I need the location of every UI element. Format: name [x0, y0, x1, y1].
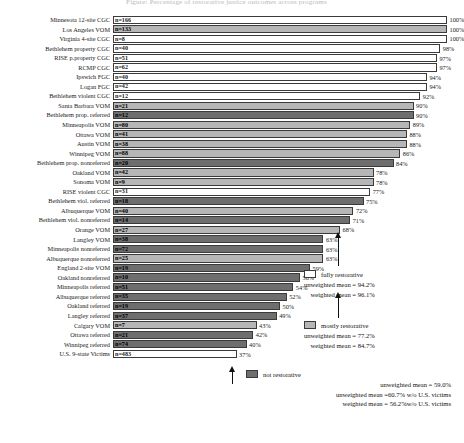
- bar-track: n=3552%: [113, 292, 453, 302]
- arrow-up-fully-icon: [338, 236, 339, 266]
- bar-n-label: n=38: [115, 140, 128, 148]
- bar-track: n=1950%: [113, 301, 453, 311]
- bar-category-label: Bethlehem viol. nonreferred: [0, 215, 113, 225]
- bar-row: England 2-site VOMn=1959%: [0, 263, 453, 273]
- bar-track: n=1290%: [113, 110, 453, 120]
- bar-not: [113, 197, 364, 205]
- bar-mostly: [113, 321, 257, 329]
- bar-category-label: Winnipeg VOM: [0, 149, 113, 159]
- bar-row: RISE violent CGCn=3177%: [0, 187, 453, 197]
- bar-category-label: Los Angeles VOM: [0, 25, 113, 35]
- bar-percent-label: 86%: [403, 149, 415, 158]
- bar-percent-label: 78%: [376, 178, 388, 187]
- bar-row: RCMP CGCn=6297%: [0, 63, 453, 73]
- bar-mostly: [113, 102, 414, 110]
- bar-category-label: Logan FGC: [0, 82, 113, 92]
- bar-full: [113, 35, 447, 43]
- bar-percent-label: 97%: [439, 54, 451, 63]
- legend-not-unweighted-alt: unweighted mean =60.7% w/o U.S. victims: [246, 390, 451, 399]
- bar-category-label: Bethlehem property CGC: [0, 44, 113, 54]
- legend-not-unweighted: unweighted mean = 59.0%: [246, 380, 451, 389]
- bar-category-label: Minneapolis VOM: [0, 120, 113, 130]
- bar-row: Virginia 4-site CGCn=8100%: [0, 34, 453, 44]
- bar-track: n=978%: [113, 177, 453, 187]
- bar-track: n=1471%: [113, 215, 453, 225]
- bar-not: [113, 235, 323, 243]
- bar-category-label: Orange VOM: [0, 225, 113, 235]
- bar-percent-label: 72%: [356, 206, 368, 215]
- legend-swatch-not-icon: [246, 370, 258, 378]
- bar-track: n=166100%: [113, 15, 453, 25]
- bar-percent-label: 88%: [409, 140, 421, 149]
- bar-row: Minnesota 12-site CGCn=166100%: [0, 15, 453, 25]
- bar-track: n=4094%: [113, 72, 453, 82]
- bar-category-label: Santa Barbara VOM: [0, 101, 113, 111]
- bar-percent-label: 52%: [289, 292, 301, 301]
- bar-track: n=3177%: [113, 187, 453, 197]
- bar-category-label: England 2-site VOM: [0, 263, 113, 273]
- bar-row: Bethlehem prop. nonreferredn=2084%: [0, 158, 453, 168]
- bar-mostly: [113, 149, 400, 157]
- bar-track: n=2142%: [113, 330, 453, 340]
- legend-not-weighted: weighted mean = 56.2%w/o U.S. victims: [246, 399, 451, 408]
- bar-n-label: n=40: [115, 44, 128, 52]
- bar-row: Bethlehem viol. referredn=1875%: [0, 196, 453, 206]
- bar-category-label: Calgary VOM: [0, 321, 113, 331]
- bar-percent-label: 43%: [259, 321, 271, 330]
- bar-n-label: n=7: [115, 321, 125, 329]
- bar-track: n=3749%: [113, 311, 453, 321]
- bar-n-label: n=31: [115, 187, 128, 195]
- chart-title: Figure: Percentage of restorative justic…: [0, 0, 453, 7]
- bar-category-label: Langley referred: [0, 311, 113, 321]
- bar-n-label: n=40: [115, 207, 128, 215]
- bar-n-label: n=21: [115, 102, 128, 110]
- legend-mostly-head: mostly restorative: [304, 321, 375, 330]
- bar-full: [113, 350, 237, 358]
- bar-category-label: Virginia 4-site CGC: [0, 34, 113, 44]
- bar-not: [113, 111, 414, 119]
- bar-category-label: Oakland nonreferred: [0, 273, 113, 283]
- bar-track: n=2768%: [113, 225, 453, 235]
- bar-percent-label: 37%: [239, 350, 251, 359]
- bar-n-label: n=40: [115, 73, 128, 81]
- bar-n-label: n=27: [115, 226, 128, 234]
- bar-category-label: Minneapolis referred: [0, 282, 113, 292]
- bar-n-label: n=62: [115, 63, 128, 71]
- bar-category-label: Minnesota 12-site CGC: [0, 15, 113, 25]
- bar-mostly: [113, 207, 353, 215]
- bar-percent-label: 71%: [353, 216, 365, 225]
- bar-n-label: n=10: [115, 273, 128, 281]
- bar-n-label: n=8: [115, 35, 125, 43]
- bar-row: Bethlehem violent CGCn=1292%: [0, 91, 453, 101]
- bar-mostly: [113, 130, 407, 138]
- bar-row: Langley referredn=3749%: [0, 311, 453, 321]
- bar-n-label: n=35: [115, 292, 128, 300]
- bar-row: Orange VOMn=2768%: [0, 225, 453, 235]
- legend-mostly-unweighted: unweighted mean = 77.2%: [304, 331, 375, 340]
- bar-row: U.S. 9-state Victimsn=48337%: [0, 349, 453, 359]
- bar-percent-label: 90%: [416, 101, 428, 110]
- bar-percent-label: 78%: [376, 168, 388, 177]
- bar-n-label: n=51: [115, 283, 128, 291]
- bar-percent-label: 90%: [416, 111, 428, 120]
- bar-row: Santa Barbara VOMn=2190%: [0, 101, 453, 111]
- bar-row: Bethlehem viol. nonreferredn=1471%: [0, 215, 453, 225]
- bar-mostly: [113, 226, 340, 234]
- bar-track: n=2563%: [113, 254, 453, 264]
- bar-not: [113, 331, 253, 339]
- bar-n-label: n=42: [115, 82, 128, 90]
- bar-not: [113, 340, 247, 348]
- bar-row: Albuquerque VOMn=4072%: [0, 206, 453, 216]
- bar-category-label: U.S. 9-state Victims: [0, 349, 113, 359]
- bar-row: Winnipeg VOMn=8886%: [0, 149, 453, 159]
- bar-n-label: n=20: [115, 159, 128, 167]
- bar-row: RISE p.property CGCn=5197%: [0, 53, 453, 63]
- bar-row: Albuquerque referredn=3552%: [0, 292, 453, 302]
- bar-row: Calgary VOMn=743%: [0, 321, 453, 331]
- bar-not: [113, 302, 280, 310]
- bar-not: [113, 283, 293, 291]
- bar-category-label: Ipswich FGC: [0, 72, 113, 82]
- bar-row: Langley VOMn=3863%: [0, 235, 453, 245]
- bar-row: Ottawa VOMn=4188%: [0, 130, 453, 140]
- bar-rows-container: Minnesota 12-site CGCn=166100%Los Angele…: [0, 15, 453, 359]
